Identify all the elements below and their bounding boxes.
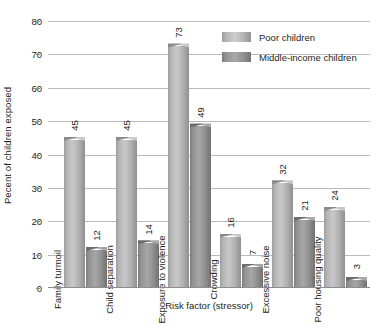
legend-item-middle-income-children: Middle-income children: [222, 49, 372, 65]
y-axis-title: Pecent of children exposed: [1, 0, 15, 290]
bar-value-label-text: 45: [121, 121, 132, 132]
x-category-label: Poor housing quality: [311, 135, 324, 285]
legend-item-poor-children: Poor children: [222, 29, 372, 45]
bar-value-label: 73: [168, 24, 189, 40]
bar-value-label-text: 12: [91, 231, 102, 242]
bar-body: [168, 46, 189, 287]
y-tick-mark: [36, 54, 40, 55]
bar-value-label-text: 45: [69, 121, 80, 132]
y-axis-title-text: Pecent of children exposed: [3, 86, 14, 203]
bar-value-label-text: 3: [351, 263, 362, 268]
x-category-label: Crowding: [207, 135, 220, 285]
bar-value-label: 45: [116, 118, 137, 134]
bar-poor-children: [272, 180, 293, 287]
bar-value-label: 45: [64, 118, 85, 134]
bar-middle-income-children: [346, 277, 367, 287]
legend-swatch-icon-poor-children: [222, 32, 251, 42]
y-tick-mark: [36, 288, 40, 289]
bar-poor-children: [324, 207, 345, 287]
bar-value-label: 3: [346, 258, 367, 274]
bar-poor-children: [116, 137, 137, 287]
bar-value-label: 32: [272, 161, 293, 177]
y-tick-mark: [36, 255, 40, 256]
bar-body: [220, 237, 241, 287]
y-axis-ticks: 01020304050607080: [16, 0, 42, 300]
x-category-label: Excessive noise: [259, 135, 272, 285]
x-category-label: Child separation: [103, 135, 116, 285]
bar-value-label-text: 7: [247, 250, 258, 255]
bar-group: Exposure to violence7349: [155, 20, 205, 287]
legend-swatch-icon-middle-income-children: [222, 52, 251, 62]
x-axis-title: Risk factor (stressor): [48, 300, 370, 311]
bar-value-label-text: 24: [329, 191, 340, 202]
bar-chart: Pecent of children exposed 0102030405060…: [0, 0, 376, 330]
bar-value-label-text: 14: [143, 224, 154, 235]
legend-label-poor-children: Poor children: [259, 32, 315, 43]
y-tick-mark: [36, 121, 40, 122]
bar-body: [64, 140, 85, 287]
bar-group: Family turmoil4512: [51, 20, 101, 287]
bar-body: [272, 183, 293, 287]
bar-body: [324, 210, 345, 287]
y-tick-mark: [36, 21, 40, 22]
bar-poor-children: [64, 137, 85, 287]
y-tick-mark: [36, 221, 40, 222]
bar-value-label: 16: [220, 215, 241, 231]
bar-group: Child separation4514: [103, 20, 153, 287]
bar-value-label: 24: [324, 188, 345, 204]
bar-poor-children: [220, 234, 241, 287]
x-category-label: Exposure to violence: [155, 135, 168, 285]
bar-value-label-text: 32: [277, 164, 288, 175]
legend: Poor children Middle-income children: [222, 29, 372, 69]
bar-body: [116, 140, 137, 287]
legend-label-middle-income-children: Middle-income children: [259, 52, 357, 63]
bar-poor-children: [168, 43, 189, 287]
x-category-label-text: Crowding: [208, 259, 219, 299]
x-axis-baseline: [48, 287, 370, 288]
bar-value-label-text: 16: [225, 217, 236, 228]
y-tick-mark: [36, 88, 40, 89]
x-category-label: Family turmoil: [51, 135, 64, 285]
bar-value-label-text: 49: [195, 107, 206, 118]
y-tick-mark: [36, 188, 40, 189]
y-tick-mark: [36, 155, 40, 156]
bar-body: [346, 280, 367, 287]
bar-value-label-text: 21: [299, 201, 310, 212]
bar-value-label-text: 73: [173, 27, 184, 38]
